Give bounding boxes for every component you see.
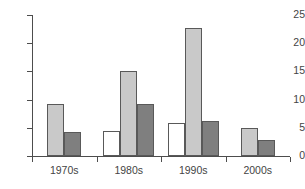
bar-chart: 0510152025 1970s1980s1990s2000s xyxy=(0,0,305,189)
bar-2000s-series-2 xyxy=(241,128,258,156)
bar-1980s-series-2 xyxy=(120,71,137,156)
bar-1980s-series-3 xyxy=(137,104,154,156)
plot-area xyxy=(32,15,290,156)
bar-2000s-series-3 xyxy=(258,140,275,156)
x-axis-tick-label: 1980s xyxy=(97,165,162,176)
x-axis-tick xyxy=(97,157,98,162)
x-axis-tick-label: 2000s xyxy=(226,165,291,176)
bar-1990s-series-3 xyxy=(202,121,219,156)
bar-1990s-series-1 xyxy=(168,123,185,156)
x-axis-tick xyxy=(32,157,33,162)
bar-1970s-series-3 xyxy=(64,132,81,156)
bar-1980s-series-1 xyxy=(103,131,120,156)
x-axis-tick-label: 1970s xyxy=(32,165,97,176)
x-axis-tick xyxy=(161,157,162,162)
x-axis-tick xyxy=(290,157,291,162)
x-axis-tick-label: 1990s xyxy=(161,165,226,176)
bar-1990s-series-2 xyxy=(185,28,202,156)
bar-1970s-series-2 xyxy=(47,104,64,156)
x-axis-tick xyxy=(226,157,227,162)
